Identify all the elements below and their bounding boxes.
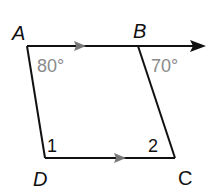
angle-1-label: 1 [47,136,57,156]
vertex-label-d: D [33,168,47,187]
angle-b-label: 70° [151,56,178,76]
parallelogram-diagram: A B C D 80° 70° 1 2 [0,0,210,187]
angle-2-label: 2 [148,136,158,156]
vertex-label-a: A [11,22,25,44]
vertex-label-b: B [133,20,146,42]
angle-a-label: 80° [37,56,64,76]
vertex-label-c: C [178,167,192,187]
